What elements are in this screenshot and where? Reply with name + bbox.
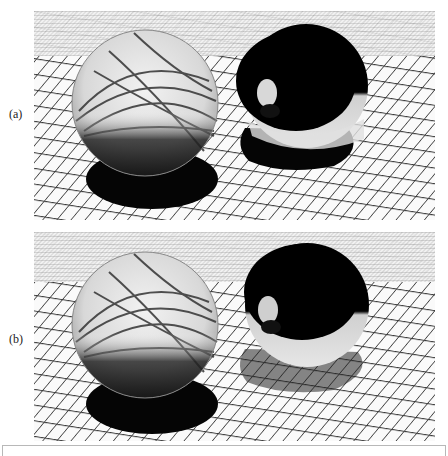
scene-a xyxy=(34,11,435,220)
render-image-b xyxy=(34,232,435,441)
panel-label-b: (b) xyxy=(9,332,23,347)
render-image-a xyxy=(34,11,435,220)
scene-b xyxy=(34,232,435,441)
caption-frame xyxy=(2,445,446,456)
panel-label-a: (a) xyxy=(9,107,22,122)
